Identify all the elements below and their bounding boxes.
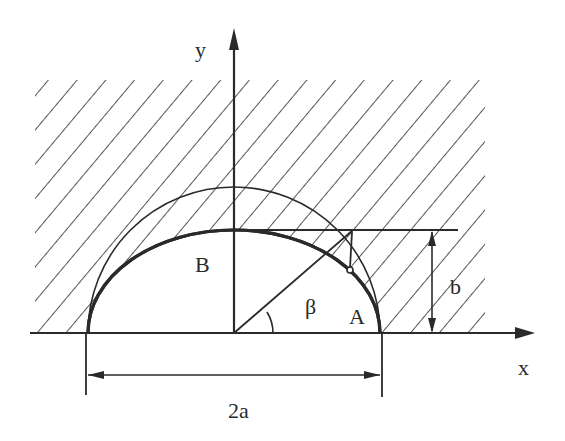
y-axis-arrow-icon: [229, 28, 239, 50]
x-axis-label: x: [518, 355, 529, 380]
major-2a-label: 2a: [228, 398, 249, 423]
ellipse-diagram: y x B A β b 2a: [0, 0, 565, 441]
point-a-label: A: [349, 304, 365, 329]
x-axis-arrow-icon: [515, 327, 535, 339]
angle-beta-label: β: [305, 294, 316, 319]
point-b-label: B: [195, 252, 210, 277]
ellipse-point: [347, 267, 353, 273]
y-axis-label: y: [195, 37, 206, 62]
semi-minor-b-label: b: [450, 274, 461, 299]
